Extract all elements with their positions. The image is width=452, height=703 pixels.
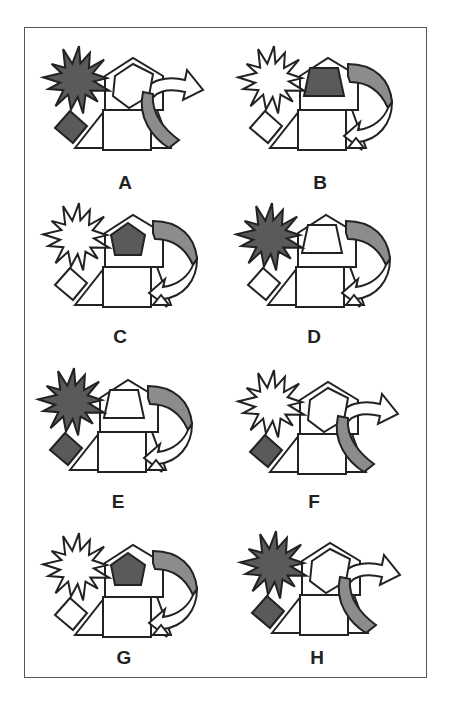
label-h: H <box>302 648 332 668</box>
rectangle-shape <box>103 597 151 637</box>
rectangle-shape <box>98 432 146 472</box>
label-d: D <box>299 327 329 347</box>
trapezoid-shape <box>302 225 342 253</box>
label-g: G <box>109 648 139 668</box>
starburst-shape <box>43 203 109 270</box>
starburst-shape <box>238 46 304 113</box>
figure-b[interactable] <box>240 48 430 208</box>
rectangle-shape <box>296 267 344 307</box>
starburst-shape <box>236 203 302 270</box>
trapezoid-shape <box>104 390 144 418</box>
starburst-shape <box>238 370 304 437</box>
figure-h[interactable] <box>242 533 432 693</box>
starburst-shape <box>43 533 109 600</box>
rectangle-shape <box>103 267 151 307</box>
starburst-shape <box>240 531 306 598</box>
label-e: E <box>103 492 133 512</box>
starburst-shape <box>43 46 109 113</box>
label-b: B <box>305 173 335 193</box>
trapezoid-shape <box>304 68 344 96</box>
figure-f[interactable] <box>240 372 430 532</box>
figure-d[interactable] <box>238 205 428 365</box>
figure-c[interactable] <box>45 205 235 365</box>
rectangle-shape <box>298 110 346 150</box>
starburst-shape <box>38 368 104 435</box>
label-c: C <box>105 327 135 347</box>
figure-a[interactable] <box>45 48 235 208</box>
figure-g[interactable] <box>45 535 235 695</box>
figure-e[interactable] <box>40 370 230 530</box>
label-f: F <box>299 492 329 512</box>
label-a: A <box>110 173 140 193</box>
